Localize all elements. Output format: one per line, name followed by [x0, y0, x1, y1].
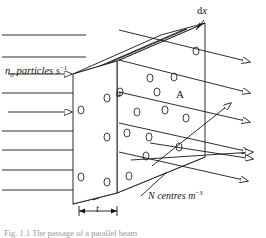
- dx-x: x: [202, 5, 207, 16]
- centre-density-label: N centres m−3: [148, 190, 203, 201]
- figure-caption: Fig. 1.1 The passage of a parallel beam: [4, 228, 137, 238]
- dx-label: dx: [197, 6, 207, 17]
- cross-section-label: σ: [116, 89, 121, 99]
- centre-density-exponent: −3: [195, 189, 202, 196]
- incident-beam-label: n0 particles s−1: [5, 65, 67, 80]
- area-label: A: [176, 89, 184, 100]
- incident-beam-exponent: −1: [60, 64, 67, 71]
- figure-root: n0 particles s−1 σ A dx N centres m−3 t …: [0, 0, 266, 238]
- t-arrow-left: [79, 209, 85, 214]
- incident-beam-text: particles s: [16, 65, 59, 76]
- slab-scattering-diagram: [0, 0, 266, 238]
- t-arrow-right: [111, 209, 117, 214]
- incident-beam-symbol: n0: [5, 65, 14, 76]
- centre-density-text: centres m: [157, 190, 195, 201]
- thickness-label: t: [96, 204, 99, 214]
- centre-density-symbol: N: [148, 190, 155, 201]
